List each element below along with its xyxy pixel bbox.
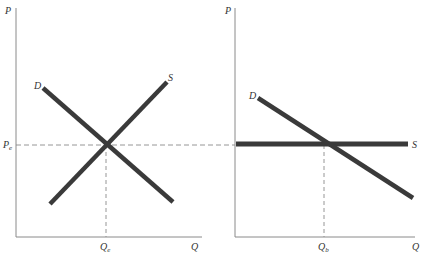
equilibrium-price-label: Pe <box>2 139 12 152</box>
equilibrium-quantity-label-e: Qe <box>100 241 110 254</box>
equilibrium-quantity-label-b: Qb <box>318 241 329 254</box>
left-panel: P D S Pe Qe Q <box>2 5 235 254</box>
right-demand-label: D <box>248 90 257 101</box>
right-demand-curve <box>258 98 413 198</box>
right-y-axis-label: P <box>224 5 231 16</box>
right-supply-label: S <box>412 139 417 150</box>
left-supply-label: S <box>168 72 173 83</box>
left-x-axis-label: Q <box>191 241 199 252</box>
left-y-axis-label: P <box>4 5 11 16</box>
right-x-axis-label: Q <box>412 241 420 252</box>
supply-demand-diagram: P D S Pe Qe Q P D S Qb Q <box>0 0 421 255</box>
left-supply-curve <box>50 82 167 204</box>
left-demand-label: D <box>33 80 42 91</box>
right-panel: P D S Qb Q <box>224 5 420 254</box>
